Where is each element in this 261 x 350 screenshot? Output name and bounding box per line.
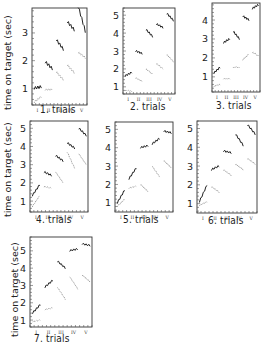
svg-text:3: 3 <box>202 33 208 44</box>
svg-text:IV: IV <box>71 330 77 335</box>
svg-text:2: 2 <box>187 179 193 190</box>
svg-text:2: 2 <box>20 297 26 308</box>
chart-caption-4: 4. trials <box>36 214 72 225</box>
chart-panel-7: time on target (sec) 12345IIIIIIIVV 7. t… <box>0 230 100 350</box>
svg-text:2: 2 <box>20 177 26 188</box>
svg-text:1: 1 <box>20 196 26 207</box>
svg-text:5: 5 <box>187 123 193 134</box>
chart-caption-3: 3. trials <box>216 100 252 111</box>
svg-text:2: 2 <box>113 63 119 74</box>
svg-text:3: 3 <box>22 27 28 38</box>
chart-panel-6: 12345IIIIIIIVV 6. trials <box>170 115 261 230</box>
svg-text:V: V <box>165 215 170 220</box>
svg-text:4: 4 <box>20 263 26 274</box>
svg-text:I: I <box>202 216 204 221</box>
chart-panel-3: 1234IIIIIIIVV 3. trials <box>170 0 261 115</box>
svg-text:2: 2 <box>105 179 111 190</box>
svg-text:3: 3 <box>20 280 26 291</box>
svg-text:I: I <box>37 108 39 113</box>
chart-plot-6: 12345IIIIIIIVV <box>170 115 261 230</box>
chart-plot-1: 123IIIIIIIVV <box>0 0 90 115</box>
svg-text:V: V <box>253 95 258 100</box>
svg-text:I: I <box>120 215 122 220</box>
chart-caption-5: 5. trials <box>123 214 159 225</box>
svg-text:2: 2 <box>22 55 28 66</box>
svg-text:1: 1 <box>105 197 111 208</box>
svg-text:5: 5 <box>113 10 119 21</box>
svg-text:V: V <box>79 108 84 113</box>
svg-text:2: 2 <box>202 52 208 63</box>
svg-text:3: 3 <box>105 161 111 172</box>
chart-panel-5: 12345IIIIIIIVV 5. trials <box>85 115 175 230</box>
svg-text:I: I <box>127 97 129 102</box>
svg-text:V: V <box>80 215 85 220</box>
svg-text:4: 4 <box>20 141 26 152</box>
svg-text:4: 4 <box>113 28 119 39</box>
svg-text:5: 5 <box>105 124 111 135</box>
svg-text:V: V <box>83 330 88 335</box>
chart-panel-1: time on target (sec) 123IIIIIIIVV 1. tri… <box>0 0 90 115</box>
svg-text:1: 1 <box>22 83 28 94</box>
svg-text:3: 3 <box>20 159 26 170</box>
chart-panel-2: 12345IIIIIIIVV 2. trials <box>85 0 175 115</box>
svg-text:1: 1 <box>20 315 26 326</box>
chart-plot-3: 1234IIIIIIIVV <box>170 0 261 115</box>
svg-text:5: 5 <box>20 123 26 134</box>
chart-caption-1: 1. trials <box>40 104 76 115</box>
chart-plot-7: 12345IIIIIIIVV <box>0 230 100 350</box>
svg-text:1: 1 <box>187 198 193 209</box>
svg-text:4: 4 <box>202 15 208 26</box>
chart-caption-7: 7. trials <box>34 333 70 344</box>
svg-text:1: 1 <box>113 81 119 92</box>
svg-text:4: 4 <box>105 142 111 153</box>
svg-text:1: 1 <box>202 71 208 82</box>
chart-caption-2: 2. trials <box>130 101 166 112</box>
svg-text:4: 4 <box>187 142 193 153</box>
chart-plot-5: 12345IIIIIIIVV <box>85 115 175 230</box>
svg-text:3: 3 <box>187 161 193 172</box>
svg-text:V: V <box>248 216 253 221</box>
chart-plot-4: 12345IIIIIIIVV <box>0 115 90 230</box>
chart-caption-6: 6. trials <box>208 215 244 226</box>
svg-text:5: 5 <box>20 245 26 256</box>
chart-plot-2: 12345IIIIIIIVV <box>85 0 175 115</box>
chart-panel-4: time on target (sec) 12345IIIIIIIVV 4. t… <box>0 115 90 230</box>
svg-text:3: 3 <box>113 46 119 57</box>
